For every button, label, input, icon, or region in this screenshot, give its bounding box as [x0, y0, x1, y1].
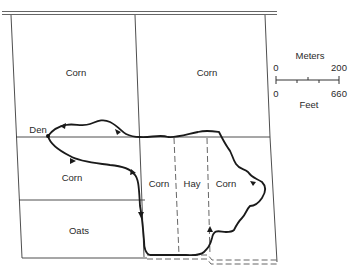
field-map: [0, 0, 356, 270]
arrow-icon: [250, 181, 256, 186]
field-label-s-hay: Hay: [184, 178, 201, 189]
arrow-icon: [207, 226, 213, 232]
field-label-ne: Corn: [197, 67, 218, 78]
road-top: [2, 12, 277, 15]
scale-top-max: 200: [331, 62, 347, 73]
field-label-nw: Corn: [66, 67, 87, 78]
scale-top-min: 0: [273, 62, 278, 73]
scale-bar: [276, 76, 339, 84]
dashed-boundaries: [147, 138, 277, 264]
field-label-sw: Oats: [69, 225, 89, 236]
scale-top-unit: Meters: [295, 50, 324, 61]
arrow-icon: [138, 212, 144, 218]
scale-bottom-min: 0: [273, 88, 278, 99]
scale-bottom-unit: Feet: [299, 99, 318, 110]
den-marker: [46, 134, 50, 138]
field-label-w-mid: Corn: [62, 172, 83, 183]
den-label: Den: [29, 124, 46, 135]
scale-bottom-max: 660: [331, 88, 347, 99]
field-label-s-corn-right: Corn: [216, 178, 237, 189]
arrow-icon: [60, 123, 66, 129]
field-label-s-corn-left: Corn: [149, 178, 170, 189]
